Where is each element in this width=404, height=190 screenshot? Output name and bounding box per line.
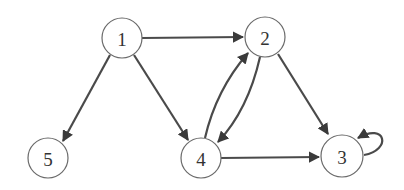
node-3-label: 3	[337, 147, 347, 168]
node-4: 4	[181, 138, 221, 178]
edge-1-to-5	[63, 55, 110, 141]
node-5: 5	[28, 138, 68, 178]
node-1: 1	[102, 18, 142, 58]
edge-4-to-2	[205, 53, 248, 138]
node-5-label: 5	[43, 149, 53, 170]
node-2: 2	[245, 17, 285, 57]
node-2-label: 2	[260, 28, 270, 49]
edge-2-to-3	[278, 54, 328, 134]
node-1-label: 1	[117, 29, 127, 50]
edge-1-to-2	[142, 37, 243, 38]
edge-1-to-4	[134, 55, 188, 140]
edge-4-to-3	[221, 157, 319, 158]
node-4-label: 4	[196, 149, 206, 170]
node-3: 3	[321, 135, 363, 177]
graph-diagram: 1 2 3 4 5	[0, 0, 404, 190]
graph-svg: 1 2 3 4 5	[0, 0, 404, 190]
edge-2-to-4	[218, 57, 260, 142]
